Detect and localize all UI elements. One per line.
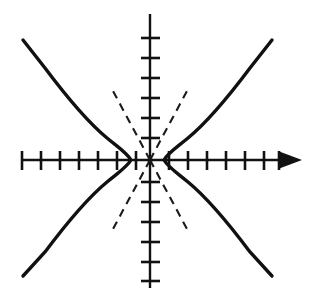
hyperbola-figure <box>0 0 311 292</box>
hyperbola-plot-svg <box>0 0 311 292</box>
